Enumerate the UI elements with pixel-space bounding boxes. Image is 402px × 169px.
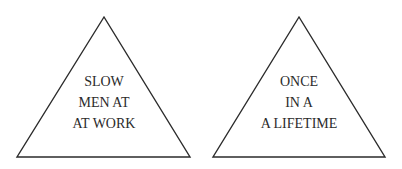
sign-left-line-3: AT WORK [73,116,136,131]
sign-left-line-2: MEN AT [79,95,130,110]
sign-right-line-1: ONCE [280,74,318,89]
sign-left-line-1: SLOW [84,74,124,89]
sign-slow-men-at-work: SLOW MEN AT AT WORK [17,17,190,157]
illusion-diagram: SLOW MEN AT AT WORK ONCE IN A A LIFETIME [0,0,402,169]
sign-right-line-3: A LIFETIME [261,116,338,131]
sign-once-in-a-lifetime: ONCE IN A A LIFETIME [213,17,385,157]
sign-right-line-2: IN A [285,95,314,110]
